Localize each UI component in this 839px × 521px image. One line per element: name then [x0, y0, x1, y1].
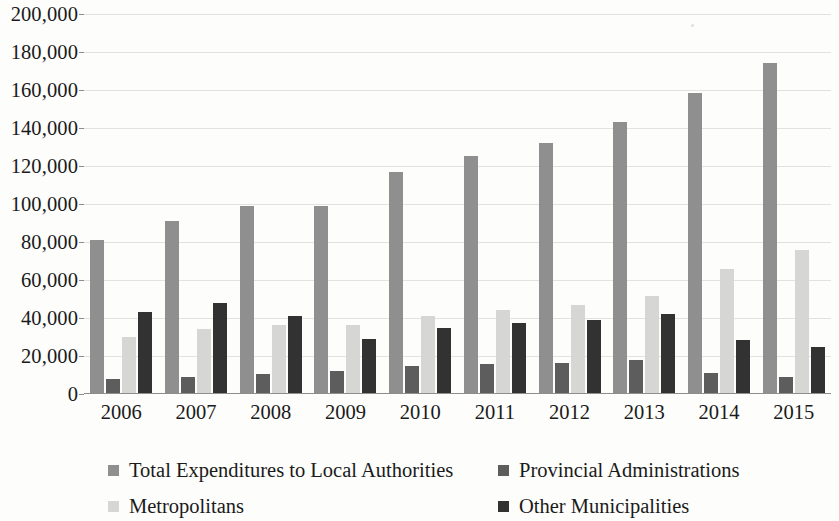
bar[interactable] — [330, 371, 344, 394]
y-axis-tick — [79, 318, 84, 319]
bar[interactable] — [181, 377, 195, 394]
legend-swatch-icon — [498, 465, 509, 476]
bar[interactable] — [362, 339, 376, 394]
legend-label: Total Expenditures to Local Authorities — [129, 460, 453, 481]
bar[interactable] — [213, 303, 227, 394]
bar-chart: 200,000180,000160,000140,000120,000100,0… — [0, 0, 839, 521]
bar[interactable] — [645, 296, 659, 394]
bar[interactable] — [779, 377, 793, 394]
bar[interactable] — [288, 316, 302, 394]
y-axis-tick — [79, 166, 84, 167]
y-axis-tick — [79, 14, 84, 15]
legend-label: Other Municipalities — [519, 496, 689, 517]
bar[interactable] — [314, 206, 328, 394]
legend-item[interactable]: Total Expenditures to Local Authorities — [108, 460, 498, 481]
x-axis-labels: 2006200720082009201020112012201320142015 — [84, 398, 831, 428]
x-axis-line — [84, 393, 831, 394]
bar[interactable] — [704, 373, 718, 394]
bar[interactable] — [763, 63, 777, 394]
bar[interactable] — [272, 325, 286, 394]
y-axis-tick-label: 120,000 — [11, 156, 78, 177]
bar[interactable] — [736, 340, 750, 394]
legend-swatch-icon — [108, 501, 119, 512]
bar[interactable] — [106, 379, 120, 394]
legend-item[interactable]: Provincial Administrations — [498, 460, 808, 481]
bar[interactable] — [437, 328, 451, 395]
y-axis-tick-label: 80,000 — [21, 232, 78, 253]
y-axis-tick-label: 200,000 — [11, 4, 78, 25]
x-axis-tick-label: 2011 — [458, 398, 533, 428]
y-axis-tick — [79, 204, 84, 205]
bar[interactable] — [587, 320, 601, 394]
bar[interactable] — [197, 329, 211, 394]
x-axis-tick-label: 2014 — [682, 398, 757, 428]
bar-group — [756, 14, 831, 394]
bar[interactable] — [661, 314, 675, 394]
x-axis-tick-label: 2013 — [607, 398, 682, 428]
y-axis-tick — [79, 128, 84, 129]
y-axis-tick-label: 40,000 — [21, 308, 78, 329]
bar-group — [383, 14, 458, 394]
bar[interactable] — [90, 240, 104, 394]
y-axis-tick — [79, 280, 84, 281]
x-axis-tick-label: 2007 — [159, 398, 234, 428]
bar[interactable] — [688, 93, 702, 394]
bar-group — [607, 14, 682, 394]
x-axis-tick-label: 2012 — [532, 398, 607, 428]
bar[interactable] — [613, 122, 627, 394]
legend-item[interactable]: Other Municipalities — [498, 496, 808, 517]
bar[interactable] — [165, 221, 179, 394]
bar[interactable] — [389, 172, 403, 394]
bar[interactable] — [256, 374, 270, 394]
x-axis-tick-label: 2006 — [84, 398, 159, 428]
bar[interactable] — [496, 310, 510, 394]
bar-group — [159, 14, 234, 394]
bar-group — [233, 14, 308, 394]
bar[interactable] — [571, 305, 585, 394]
scan-artifact — [691, 24, 694, 27]
bar[interactable] — [122, 337, 136, 394]
legend-item[interactable]: Metropolitans — [108, 496, 498, 517]
bar[interactable] — [720, 269, 734, 394]
bar[interactable] — [795, 250, 809, 394]
bar[interactable] — [405, 366, 419, 394]
bar[interactable] — [512, 323, 526, 394]
x-axis-tick-label: 2009 — [308, 398, 383, 428]
chart-legend: Total Expenditures to Local AuthoritiesP… — [108, 452, 808, 521]
bar[interactable] — [811, 347, 825, 394]
y-axis-tick — [79, 356, 84, 357]
x-axis-tick-label: 2008 — [233, 398, 308, 428]
bar-groups — [84, 14, 831, 394]
bar[interactable] — [346, 325, 360, 394]
bar[interactable] — [464, 156, 478, 394]
y-axis-labels: 200,000180,000160,000140,000120,000100,0… — [0, 0, 78, 408]
y-axis-tick-label: 100,000 — [11, 194, 78, 215]
y-axis-tick — [79, 52, 84, 53]
bar[interactable] — [555, 363, 569, 394]
bar[interactable] — [421, 316, 435, 394]
legend-swatch-icon — [498, 501, 509, 512]
legend-label: Provincial Administrations — [519, 460, 739, 481]
y-axis-tick — [79, 242, 84, 243]
legend-label: Metropolitans — [129, 496, 244, 517]
bar[interactable] — [539, 143, 553, 394]
bar[interactable] — [629, 360, 643, 394]
bar-group — [532, 14, 607, 394]
y-axis-tick — [79, 394, 84, 395]
x-axis-tick-label: 2010 — [383, 398, 458, 428]
y-axis-tick-label: 0 — [68, 384, 78, 405]
bar-group — [682, 14, 757, 394]
y-axis-tick — [79, 90, 84, 91]
bar-group — [458, 14, 533, 394]
y-axis-tick-label: 140,000 — [11, 118, 78, 139]
y-axis-tick-label: 160,000 — [11, 80, 78, 101]
legend-swatch-icon — [108, 465, 119, 476]
y-axis-tick-label: 180,000 — [11, 42, 78, 63]
bar[interactable] — [240, 206, 254, 394]
bar-group — [308, 14, 383, 394]
y-axis-tick-label: 60,000 — [21, 270, 78, 291]
x-axis-tick-label: 2015 — [756, 398, 831, 428]
y-axis-tick-label: 20,000 — [21, 346, 78, 367]
bar[interactable] — [480, 364, 494, 394]
bar[interactable] — [138, 312, 152, 394]
